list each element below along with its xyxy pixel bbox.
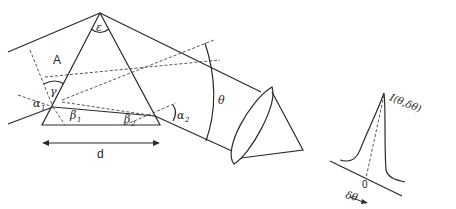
label-alpha2: α <box>177 109 185 122</box>
intensity-curve <box>340 93 405 182</box>
label-base-width: d <box>97 147 104 161</box>
label-beam-region: A <box>53 53 61 67</box>
label-alpha2-sub: 2 <box>184 116 190 124</box>
theta-arc <box>205 43 214 141</box>
label-beta2-sub: 2 <box>130 120 136 128</box>
label-beta2: β <box>123 113 130 126</box>
label-delta-theta: δθ <box>344 189 358 203</box>
normal-left-ext <box>53 107 65 125</box>
dashed-beam-1 <box>62 40 214 100</box>
label-alpha1: α <box>33 97 41 110</box>
label-origin: 0 <box>362 179 368 190</box>
label-theta: θ <box>218 94 225 107</box>
exit-ray-bottom <box>155 116 232 151</box>
label-apex-angle: ε <box>96 21 102 34</box>
label-beta1: β <box>69 109 76 122</box>
exit-ray-top <box>100 13 261 92</box>
alpha2-arc <box>173 105 176 121</box>
label-alpha1-sub: 1 <box>41 104 45 112</box>
lens <box>231 87 273 164</box>
arrowhead-right <box>153 140 160 146</box>
peak-center-line <box>366 95 384 178</box>
label-intensity: I(θ,δθ) <box>387 91 423 114</box>
prism-spectrometer-diagram: A ε γ α 1 β 1 β 2 α 2 θ d I(θ,δθ) 0 δθ <box>0 0 456 209</box>
incident-ray-top <box>8 13 100 52</box>
gamma-arc <box>44 81 64 84</box>
label-gamma: γ <box>50 85 57 98</box>
arrowhead-left <box>42 140 49 146</box>
label-beta1-sub: 1 <box>77 116 81 124</box>
